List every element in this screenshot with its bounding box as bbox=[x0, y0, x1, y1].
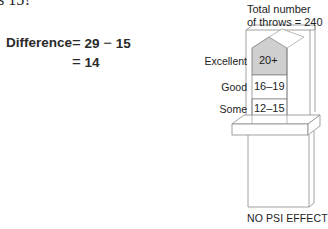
range-excellent: 20+ bbox=[259, 54, 278, 66]
total-label-line-2: of throws = 240 bbox=[247, 16, 323, 29]
total-throws-label: Total number of throws = 240 bbox=[247, 3, 323, 29]
no-psi-effect-label: NO PSI EFFECT bbox=[247, 212, 328, 224]
range-good: 16–19 bbox=[254, 80, 285, 92]
row-label-excellent: Excellent bbox=[187, 55, 247, 67]
row-label-good: Good bbox=[187, 81, 247, 93]
row-label-some: Some bbox=[187, 103, 247, 115]
range-some: 12–15 bbox=[254, 102, 285, 114]
total-label-line-1: Total number bbox=[247, 3, 323, 16]
